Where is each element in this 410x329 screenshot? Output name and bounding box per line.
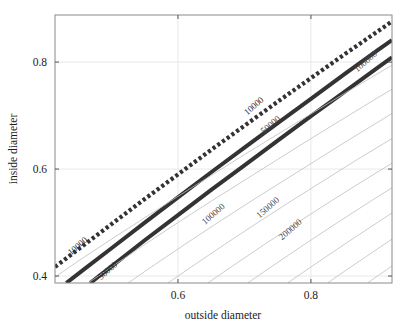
y-tick-label: 0.4 xyxy=(33,270,48,282)
contour-plot-figure: 1000010000500005000010000015000020000010… xyxy=(0,0,410,329)
y-tick-label: 0.6 xyxy=(33,163,48,175)
x-tick-label: 0.8 xyxy=(304,289,319,301)
plot-canvas: 1000010000500005000010000015000020000010… xyxy=(0,0,410,329)
y-tick-label: 0.8 xyxy=(33,56,48,68)
x-axis-title: outside diameter xyxy=(185,309,261,321)
y-axis-title: inside diameter xyxy=(7,114,19,185)
x-tick-label: 0.6 xyxy=(171,289,186,301)
